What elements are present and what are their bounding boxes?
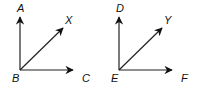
ray-ey — [119, 28, 162, 70]
angle-figure-def: D Y F E — [111, 2, 189, 84]
label-e: E — [111, 72, 119, 84]
label-f: F — [181, 72, 189, 84]
label-x: X — [64, 14, 73, 26]
label-a: A — [16, 2, 24, 14]
label-d: D — [116, 2, 124, 14]
diagram-canvas: A X C B D Y F E — [0, 0, 198, 88]
angle-figure-abc: A X C B — [12, 2, 90, 84]
label-c: C — [82, 72, 90, 84]
ray-bx — [20, 28, 63, 70]
label-b: B — [12, 72, 19, 84]
label-y: Y — [164, 14, 172, 26]
